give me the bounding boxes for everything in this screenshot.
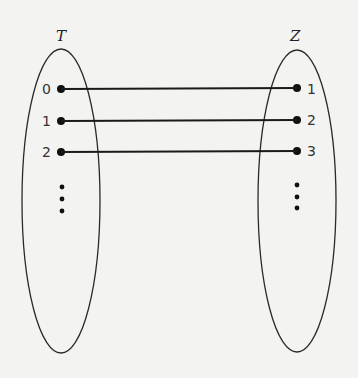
set-t: T 0 1 2 bbox=[22, 27, 100, 353]
diagram-canvas: T 0 1 2 Z 1 2 3 bbox=[0, 0, 358, 378]
set-t-element-label: 2 bbox=[42, 144, 51, 160]
set-t-title: T bbox=[56, 27, 67, 45]
set-z-element-label: 1 bbox=[307, 81, 316, 97]
set-z-element-label: 2 bbox=[307, 112, 316, 128]
mapping-diagram: T 0 1 2 Z 1 2 3 bbox=[0, 0, 358, 378]
set-z: Z 1 2 3 bbox=[258, 27, 336, 352]
set-z-ellipse bbox=[258, 50, 336, 352]
mapping-line bbox=[61, 120, 297, 121]
set-t-element-label: 0 bbox=[42, 81, 51, 97]
set-t-ellipsis-icon bbox=[60, 185, 65, 214]
mapping-arrows bbox=[61, 88, 297, 152]
mapping-line bbox=[61, 151, 297, 152]
set-z-element-label: 3 bbox=[307, 143, 316, 159]
set-t-element-label: 1 bbox=[42, 113, 51, 129]
set-z-ellipsis-icon bbox=[295, 183, 300, 211]
mapping-line bbox=[61, 88, 297, 89]
set-z-title: Z bbox=[289, 27, 301, 45]
